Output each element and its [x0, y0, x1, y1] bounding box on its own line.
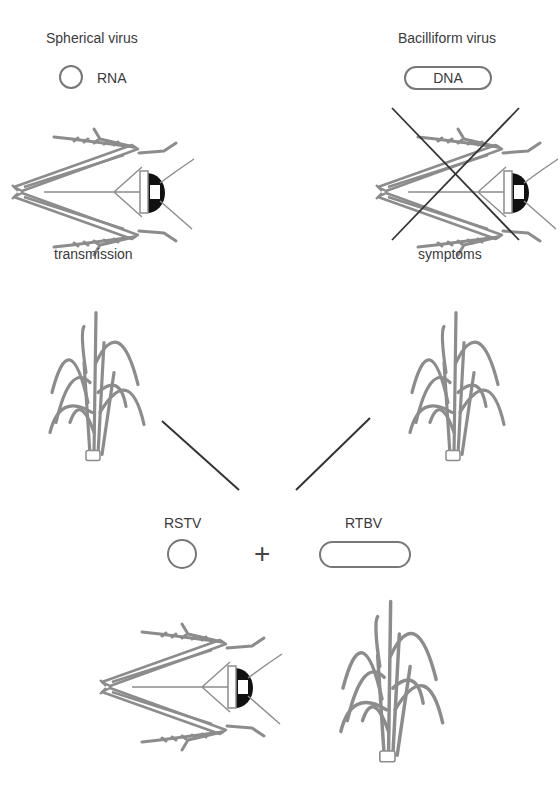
rstv-spherical-icon: [167, 539, 197, 569]
rtbv-label: RTBV: [345, 515, 382, 531]
leafhopper-insect-icon: [102, 620, 292, 760]
plus-sign: +: [254, 538, 270, 570]
rtbv-bacilliform-icon: [319, 541, 411, 568]
rstv-label: RSTV: [164, 515, 201, 531]
rice-plant-icon: [330, 585, 460, 775]
